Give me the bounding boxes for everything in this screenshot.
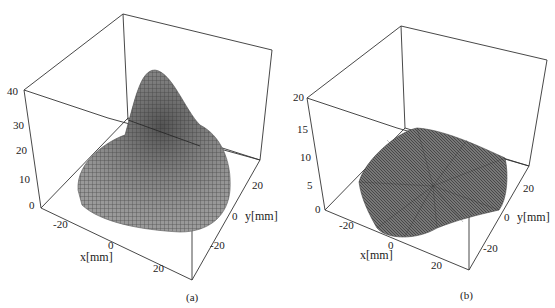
panel-b: 20 15 10 5 0 -20 0 20 x[mm] 20 0 -20 y[m… — [277, 0, 555, 308]
y-tick-label: -20 — [210, 240, 225, 251]
y-axis-title: y[mm] — [517, 212, 550, 223]
surface-plot-b — [277, 0, 555, 308]
x-tick-label: -20 — [53, 219, 68, 230]
x-tick-label: -20 — [339, 220, 354, 231]
z-tick-label: 0 — [29, 200, 35, 211]
z-tick-label: 5 — [307, 180, 313, 191]
z-tick-label: 10 — [19, 174, 30, 185]
x-axis-title: x[mm] — [80, 252, 113, 263]
z-tick-label: 20 — [16, 145, 27, 156]
panel-caption: (a) — [186, 291, 198, 303]
x-axis-title: x[mm] — [360, 250, 393, 261]
z-tick-label: 0 — [315, 204, 321, 215]
y-axis-title: y[mm] — [245, 211, 278, 222]
x-tick-label: 20 — [431, 260, 442, 271]
z-tick-label: 20 — [293, 92, 304, 103]
panel-a: 40 30 20 10 0 -20 0 20 x[mm] 20 0 -20 y[… — [0, 0, 278, 308]
surface-mesh-b — [359, 128, 507, 237]
y-tick-label: 0 — [232, 211, 238, 222]
z-tick-label: 30 — [13, 120, 24, 131]
y-tick-label: -20 — [483, 243, 498, 254]
y-tick-label: 20 — [523, 183, 534, 194]
y-tick-label: 0 — [504, 212, 510, 223]
z-tick-label: 15 — [297, 124, 308, 135]
z-tick-label: 40 — [7, 86, 18, 97]
panel-caption: (b) — [460, 289, 473, 301]
x-tick-label: 20 — [153, 263, 164, 274]
surface-plot-a — [0, 0, 278, 308]
z-tick-label: 10 — [300, 152, 311, 163]
y-tick-label: 20 — [252, 180, 263, 191]
